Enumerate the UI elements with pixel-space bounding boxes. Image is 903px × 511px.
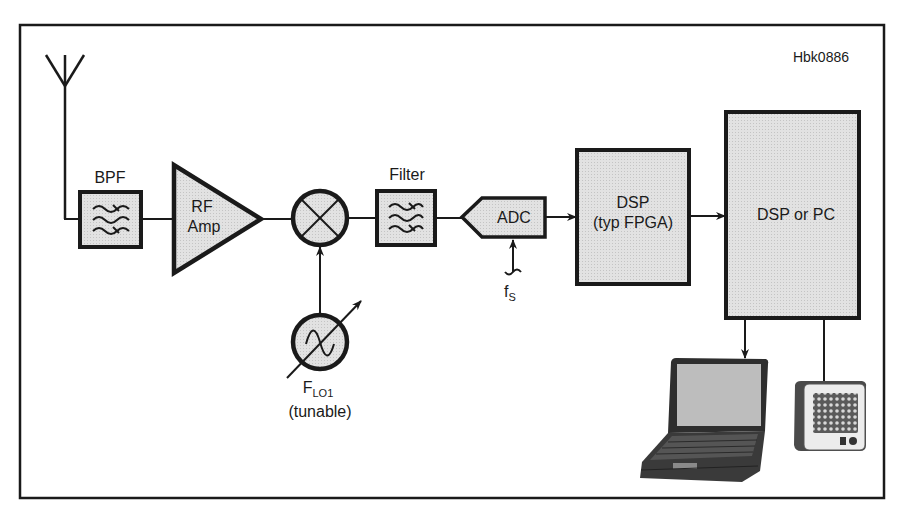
dsp-fpga-label-line1: DSP xyxy=(617,194,650,211)
mixer-block xyxy=(293,191,347,245)
rf-amp-label-line2: Amp xyxy=(188,218,221,235)
filter-label: Filter xyxy=(389,166,425,183)
dsp-fpga-block: DSP (typ FPGA) xyxy=(577,150,689,284)
lo-tunable-label: (tunable) xyxy=(288,403,351,420)
adc-block: ADC xyxy=(462,198,545,237)
speaker-icon xyxy=(794,381,866,451)
bpf-label: BPF xyxy=(94,169,125,186)
dsp-fpga-label-line2: (typ FPGA) xyxy=(593,214,673,231)
dsp-or-pc-block: DSP or PC xyxy=(726,112,859,318)
bpf-block xyxy=(80,192,141,247)
figure-id-label: Hbk0886 xyxy=(793,49,849,65)
adc-label: ADC xyxy=(497,209,531,226)
rf-amp-label-line1: RF xyxy=(191,198,213,215)
filter-block xyxy=(377,191,435,245)
dsp-or-pc-label: DSP or PC xyxy=(757,206,835,223)
sdr-block-diagram: Hbk0886 BPF RF Amp xyxy=(0,0,903,511)
